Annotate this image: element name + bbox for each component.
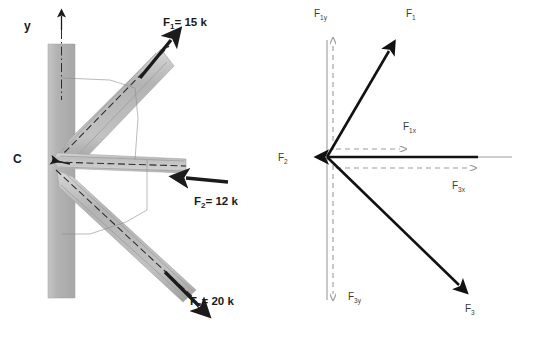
label-f2: F2: [278, 152, 288, 165]
member-f2: [52, 153, 228, 182]
label-f3y: F3y: [348, 291, 362, 305]
caption-f1-equals: = 15 k: [174, 16, 207, 28]
caption-f3-equals: = 20 k: [201, 295, 234, 307]
caption-f3-base: F: [190, 295, 197, 307]
left-physical-diagram: y C: [13, 16, 238, 310]
caption-f1-base: F: [163, 16, 170, 28]
caption-f2-equals: = 12 k: [205, 195, 238, 207]
svg-text:F1= 15 k: F1= 15 k: [163, 16, 207, 31]
y-axis-label: y: [24, 19, 31, 33]
label-f3x: F3x: [452, 180, 466, 193]
member-f1-flange-line: [63, 53, 156, 150]
right-vector-diagram: F1y F1 F1x F2 F3x F3y F3: [278, 8, 512, 316]
label-f1y: F1y: [314, 8, 328, 22]
engineering-force-figure: y C: [0, 0, 533, 338]
figure-root: y C: [0, 0, 533, 338]
caption-f1: F1= 15 k: [163, 16, 207, 31]
vector-f3: [327, 157, 459, 285]
member-f3-edge-line: [61, 185, 187, 299]
caption-f3: F3= 20 k: [190, 295, 234, 310]
force-arrow-f2: [186, 178, 228, 182]
member-f1-edge-line: [72, 62, 167, 161]
joint-label-c: C: [13, 152, 22, 166]
member-f3: [56, 170, 199, 306]
label-f3: F3: [465, 303, 475, 316]
caption-f2-base: F: [194, 195, 201, 207]
member-f3-flange-line: [67, 175, 193, 291]
caption-f2: F2= 12 k: [194, 195, 238, 210]
svg-text:F3= 20 k: F3= 20 k: [190, 295, 234, 310]
svg-text:F2= 12 k: F2= 12 k: [194, 195, 238, 210]
vector-f1: [327, 51, 389, 157]
label-f1x: F1x: [403, 121, 417, 134]
label-f1: F1: [406, 8, 416, 21]
